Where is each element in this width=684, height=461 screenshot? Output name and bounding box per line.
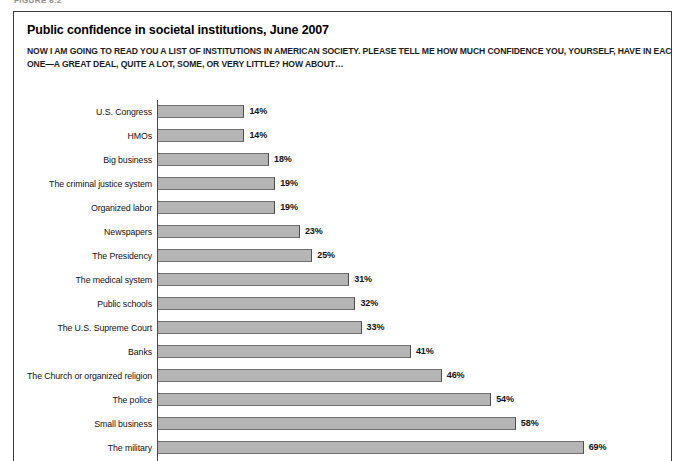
bar-category-label: The Presidency [92,244,152,268]
bar-category-label: The police [112,388,152,412]
bar [158,417,516,430]
bar-row: Organized labor19% [14,196,672,220]
bar-category-label: HMOs [127,124,152,148]
chart-panel: Public confidence in societal institutio… [13,11,672,461]
bar-value-label: 32% [360,295,378,311]
bar [158,393,491,406]
panel-subtitle: NOW I AM GOING TO READ YOU A LIST OF INS… [27,45,657,70]
bar-category-label: The military [108,436,152,460]
bar-value-label: 14% [249,103,267,119]
bar-category-label: The criminal justice system [49,172,152,196]
bar-value-label: 54% [496,391,514,407]
bar [158,129,244,142]
bar [158,297,355,310]
bar [158,369,442,382]
bar-row: The Presidency25% [14,244,672,268]
bar-row: U.S. Congress14% [14,100,672,124]
bar-value-label: 25% [317,247,335,263]
bar-category-label: Small business [94,412,152,436]
bar [158,105,244,118]
bar-value-label: 14% [249,127,267,143]
bar-category-label: The medical system [76,268,152,292]
bar-row: Small business58% [14,412,672,436]
bar-value-label: 31% [354,271,372,287]
bar-row: The medical system31% [14,268,672,292]
bar [158,441,584,454]
bar-row: Big business18% [14,148,672,172]
bar [158,153,269,166]
bar-category-label: Newspapers [104,220,152,244]
bar-category-label: The Church or organized religion [27,364,152,388]
bar-row: The police54% [14,388,672,412]
bar-category-label: Big business [103,148,152,172]
bar [158,249,312,262]
bar-value-label: 69% [589,439,607,455]
panel-title: Public confidence in societal institutio… [27,23,329,37]
bar [158,345,411,358]
bar-row: The criminal justice system19% [14,172,672,196]
bar-value-label: 33% [367,319,385,335]
bar-category-label: Banks [128,340,152,364]
panel-subtitle-line-2: ONE—A GREAT DEAL, QUITE A LOT, SOME, OR … [27,58,657,71]
bar [158,273,349,286]
bar [158,177,275,190]
bar-value-label: 19% [280,199,298,215]
figure-number-caption: FIGURE 6.2 [14,0,62,5]
bar-row: HMOs14% [14,124,672,148]
bar-chart-plot: U.S. Congress14%HMOs14%Big business18%Th… [14,86,672,461]
bar-value-label: 18% [274,151,292,167]
bar-category-label: U.S. Congress [96,100,152,124]
bar [158,321,362,334]
bar-value-label: 19% [280,175,298,191]
panel-subtitle-line-1: NOW I AM GOING TO READ YOU A LIST OF INS… [27,45,657,58]
bar-value-label: 41% [416,343,434,359]
bar-value-label: 23% [305,223,323,239]
bar-row: Newspapers23% [14,220,672,244]
bar-category-label: Organized labor [91,196,152,220]
bar-category-label: Public schools [97,292,152,316]
bar-row: The military69% [14,436,672,460]
bar-row: The U.S. Supreme Court33% [14,316,672,340]
bar-value-label: 46% [447,367,465,383]
bar-category-label: The U.S. Supreme Court [57,316,152,340]
bar-row: Public schools32% [14,292,672,316]
bar-value-label: 58% [521,415,539,431]
bar [158,225,300,238]
bar-row: The Church or organized religion46% [14,364,672,388]
bar-row: Banks41% [14,340,672,364]
bar [158,201,275,214]
